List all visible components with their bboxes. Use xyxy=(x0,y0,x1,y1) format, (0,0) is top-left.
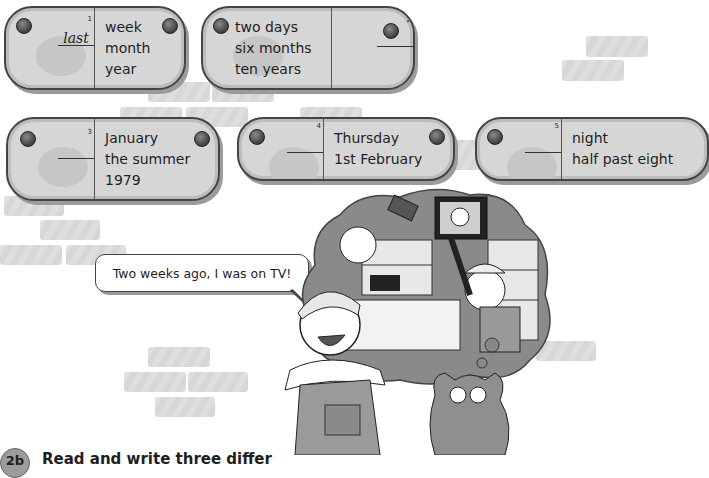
time-phrase: Thursday xyxy=(334,128,453,149)
answer-field[interactable] xyxy=(58,144,94,159)
background-brick xyxy=(40,220,100,240)
cartoon-illustration xyxy=(270,185,570,455)
time-phrase: two days xyxy=(235,17,331,38)
item-number: 5 xyxy=(555,122,559,130)
time-phrase: 1st February xyxy=(334,149,453,170)
answer-blank-1[interactable]: 1 last xyxy=(6,8,94,88)
word-plaque-3: 3 January the summer 1979 xyxy=(6,117,220,201)
instruction-text: Read and write three differ xyxy=(42,450,272,468)
item-number: 3 xyxy=(88,128,92,136)
answer-blank-2[interactable]: 2 xyxy=(331,8,413,88)
time-phrase: month xyxy=(105,38,184,59)
time-phrase-list: two days six months ten years xyxy=(203,17,331,80)
answer-field[interactable] xyxy=(287,138,323,153)
background-brick xyxy=(0,245,62,265)
thought-cloud xyxy=(303,189,551,384)
time-phrase-list: Thursday 1st February xyxy=(324,128,453,170)
background-brick xyxy=(586,36,648,57)
time-phrase: half past eight xyxy=(572,149,707,170)
word-plaque-2: two days six months ten years 2 xyxy=(201,6,415,90)
background-brick xyxy=(188,372,248,392)
background-brick xyxy=(124,372,186,392)
item-number: 4 xyxy=(317,122,321,130)
background-brick xyxy=(148,347,210,367)
time-phrase: week xyxy=(105,17,184,38)
time-phrase: six months xyxy=(235,38,331,59)
time-phrase: the summer xyxy=(105,149,218,170)
section-heading: 2b Read and write three differ xyxy=(0,448,272,478)
answer-blank-3[interactable]: 3 xyxy=(8,119,94,199)
background-brick xyxy=(155,397,215,417)
answer-blank-4[interactable]: 4 xyxy=(239,119,323,179)
time-phrase: night xyxy=(572,128,707,149)
time-phrase-list: night half past eight xyxy=(562,128,707,170)
answer-field[interactable]: last xyxy=(58,31,94,46)
item-number: 1 xyxy=(88,15,92,23)
time-phrase-list: January the summer 1979 xyxy=(95,128,218,191)
answer-field[interactable] xyxy=(525,138,561,153)
time-phrase: ten years xyxy=(235,59,331,80)
word-plaque-4: 4 Thursday 1st February xyxy=(237,117,455,181)
time-phrase: 1979 xyxy=(105,170,218,191)
word-plaque-5: 5 night half past eight xyxy=(475,117,709,181)
exercise-number-badge: 2b xyxy=(0,448,30,478)
item-number: 2 xyxy=(407,16,411,24)
answer-blank-5[interactable]: 5 xyxy=(477,119,561,179)
word-plaque-1: 1 last week month year xyxy=(4,6,186,90)
answer-field[interactable] xyxy=(377,32,413,47)
background-brick xyxy=(562,60,624,81)
speech-text: Two weeks ago, I was on TV! xyxy=(113,266,292,281)
time-phrase: January xyxy=(105,128,218,149)
time-phrase-list: week month year xyxy=(95,17,184,80)
time-phrase: year xyxy=(105,59,184,80)
